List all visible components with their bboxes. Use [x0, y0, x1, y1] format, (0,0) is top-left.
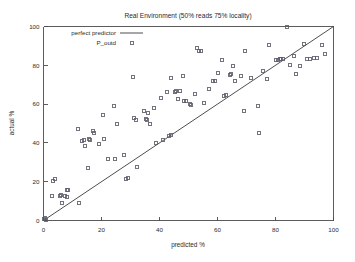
chart-title: Real Environment (50% reads 75% locality… [124, 12, 251, 20]
x-axis-label: predicted % [171, 241, 205, 249]
x-tick-label: 0 [42, 226, 46, 233]
x-tick-label: 100 [328, 226, 339, 233]
y-tick-label: 40 [33, 139, 40, 146]
y-tick-label: 20 [33, 178, 40, 185]
y-tick-label: 0 [36, 217, 40, 224]
y-tick-label: 100 [29, 23, 40, 30]
legend-label: perfect predictor [71, 29, 116, 36]
x-tick-label: 60 [214, 226, 221, 233]
y-tick-label: 80 [33, 62, 40, 69]
chart-figure: Real Environment (50% reads 75% locality… [0, 0, 355, 262]
y-tick-label: 60 [33, 100, 40, 107]
scatter-plot: Real Environment (50% reads 75% locality… [0, 0, 355, 262]
x-tick-label: 20 [98, 226, 105, 233]
legend-label: P_outd [96, 39, 116, 46]
y-axis-label: actual % [8, 110, 15, 135]
x-tick-label: 40 [156, 226, 163, 233]
x-tick-label: 80 [272, 226, 279, 233]
